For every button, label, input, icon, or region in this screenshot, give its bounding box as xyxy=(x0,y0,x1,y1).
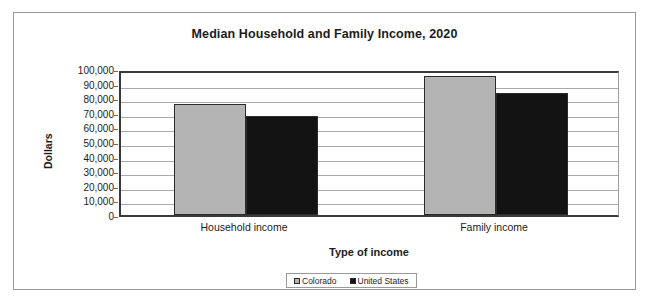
legend-item-united-states[interactable]: United States xyxy=(350,276,409,286)
y-axis-tick-mark xyxy=(114,100,118,101)
y-axis-tick-label: 40,000 xyxy=(56,154,114,164)
legend-item-colorado[interactable]: Colorado xyxy=(294,276,337,286)
y-axis-tick-labels: 100,00090,00080,00070,00060,00050,00040,… xyxy=(54,71,114,217)
y-axis-tick-label: 80,000 xyxy=(56,95,114,105)
plot-area xyxy=(119,71,619,217)
y-axis-tick-mark xyxy=(114,71,118,72)
y-axis-tick-mark xyxy=(114,173,118,174)
legend-label: United States xyxy=(358,276,409,286)
bar-united-states-household-income xyxy=(246,116,318,215)
x-axis-title: Type of income xyxy=(119,246,619,258)
y-axis-tick-label: 60,000 xyxy=(56,124,114,134)
y-axis-tick-label: 90,000 xyxy=(56,81,114,91)
y-axis-tick-mark xyxy=(114,217,118,218)
y-axis-tick-label: 70,000 xyxy=(56,110,114,120)
y-axis-tick-label: 20,000 xyxy=(56,183,114,193)
y-axis-tick-label: 10,000 xyxy=(56,197,114,207)
y-axis-tick-label: 50,000 xyxy=(56,139,114,149)
y-axis-tick-mark xyxy=(114,115,118,116)
y-axis-tick-label: 100,000 xyxy=(56,66,114,76)
gridline xyxy=(121,88,618,89)
chart-title: Median Household and Family Income, 2020 xyxy=(14,27,635,41)
y-axis-tick-mark xyxy=(114,188,118,189)
legend-label: Colorado xyxy=(302,276,337,286)
y-axis-tick-mark xyxy=(114,144,118,145)
legend-swatch-icon xyxy=(294,278,300,284)
bar-united-states-family-income xyxy=(496,93,568,215)
y-axis-tick-mark xyxy=(114,159,118,160)
y-axis-tick-label: 0 xyxy=(56,212,114,222)
y-axis-tick-mark xyxy=(114,202,118,203)
y-axis-tick-label: 30,000 xyxy=(56,168,114,178)
chart-legend: ColoradoUnited States xyxy=(286,273,417,288)
bar-colorado-family-income xyxy=(424,76,496,215)
chart-frame: Median Household and Family Income, 2020… xyxy=(13,12,636,290)
y-axis-tick-mark xyxy=(114,86,118,87)
x-axis-tick-label: Household income xyxy=(201,221,288,233)
bar-colorado-household-income xyxy=(174,104,246,215)
x-axis-tick-labels: Household incomeFamily income xyxy=(119,221,619,237)
legend-swatch-icon xyxy=(350,278,356,284)
y-axis-tick-mark xyxy=(114,129,118,130)
x-axis-tick-label: Family income xyxy=(460,221,528,233)
chart-screenshot: Median Household and Family Income, 2020… xyxy=(0,0,650,305)
